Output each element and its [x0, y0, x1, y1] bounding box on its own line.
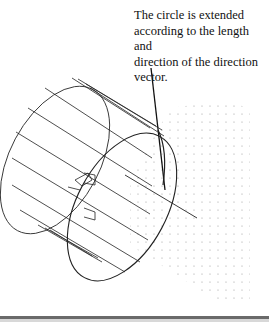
cad-viewport: [0, 0, 269, 322]
back-circle: [0, 68, 132, 252]
snap-grid: [120, 95, 255, 305]
